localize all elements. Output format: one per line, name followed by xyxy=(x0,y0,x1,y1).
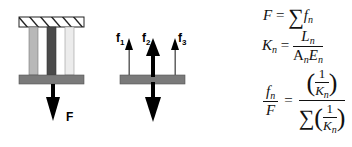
eq2-denominator: AnEn xyxy=(293,47,323,65)
label-f1-sub: 1 xyxy=(120,38,124,47)
eq1-lhs: F xyxy=(263,7,272,23)
force-label-F: F xyxy=(66,110,73,124)
column-2 xyxy=(47,27,56,75)
eq2-lhs: K xyxy=(262,37,272,53)
label-f1: f1 xyxy=(116,31,124,47)
sigma-icon: ∑ xyxy=(288,4,304,29)
eq3-rhs-den: ∑ ( 1 Kn ) xyxy=(299,101,346,135)
eq3-rhs-num: ( 1 Kn ) xyxy=(299,66,346,101)
reaction-arrow-down xyxy=(145,82,161,122)
eq2-numerator: Ln xyxy=(293,28,323,47)
eq3-lhs-num: fn xyxy=(263,83,278,102)
column-1 xyxy=(29,27,38,75)
sigma-icon: ∑ xyxy=(299,105,315,131)
eq2-equals: = xyxy=(281,37,289,53)
label-f3: f3 xyxy=(178,31,186,47)
eq3-equals: = xyxy=(284,92,292,109)
label-f2-sub: 2 xyxy=(146,38,150,47)
equation-total-force: F = ∑fn xyxy=(263,4,313,30)
eq3-lhs-fraction: fn F xyxy=(263,83,278,119)
label-f2: f2 xyxy=(142,31,150,47)
eq2-fraction: Ln AnEn xyxy=(293,28,323,65)
force-arrow-down xyxy=(46,84,60,121)
eq1-sub: n xyxy=(308,14,313,25)
left-plate xyxy=(19,75,84,84)
equation-stiffness: Kn = Ln AnEn xyxy=(262,28,323,65)
column-3 xyxy=(65,27,74,75)
label-f3-sub: 3 xyxy=(182,38,186,47)
equation-load-share: fn F = ( 1 Kn ) ∑ ( 1 Kn ) xyxy=(263,66,345,135)
eq1-equals: = xyxy=(276,7,284,23)
f1-arrow-up xyxy=(125,38,133,75)
eq3-rhs-fraction: ( 1 Kn ) ∑ ( 1 Kn ) xyxy=(299,66,346,135)
eq2-lhs-sub: n xyxy=(272,44,277,55)
eq3-lhs-den: F xyxy=(263,102,278,119)
